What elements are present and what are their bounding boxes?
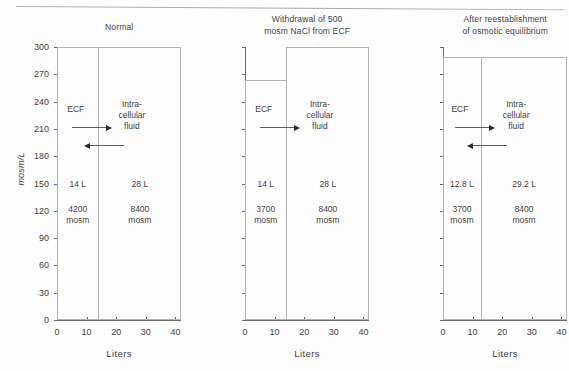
- arrow-shaft: [89, 145, 124, 146]
- y-axis-title: mosm/L: [16, 149, 26, 189]
- y-tick-label: 300: [23, 43, 49, 52]
- y-tick-label: 60: [23, 261, 49, 270]
- icf-osmoles-label: 8400 mosm: [499, 204, 549, 226]
- x-tick-label: 0: [235, 328, 255, 337]
- ecf-volume-label: 14 L: [56, 179, 100, 190]
- water-flux-arrow-right: [260, 124, 300, 131]
- x-tick-label: 20: [294, 328, 314, 337]
- y-tick-label: 270: [23, 70, 49, 79]
- y-tick-label: 30: [23, 289, 49, 298]
- icf-osmoles-label: 8400 mosm: [115, 204, 165, 226]
- y-tick-label: 120: [23, 207, 49, 216]
- x-tick-label: 20: [106, 328, 126, 337]
- x-axis-title: Liters: [79, 348, 159, 359]
- water-flux-arrow-left: [84, 142, 124, 149]
- icf-osmoles-label: 8400 mosm: [303, 204, 353, 226]
- icf-label: Intra- cellular fluid: [297, 99, 343, 132]
- ecf-label: ECF: [244, 104, 284, 115]
- panel-title: After reestablishment of osmotic equilib…: [430, 14, 569, 37]
- y-tick-label: 90: [23, 234, 49, 243]
- x-tick-label: 40: [165, 328, 185, 337]
- y-tick-label: 150: [23, 180, 49, 189]
- icf-label: Intra- cellular fluid: [493, 99, 539, 132]
- y-tick: [242, 74, 246, 75]
- x-axis-title: Liters: [465, 348, 545, 359]
- arrow-head: [84, 143, 90, 149]
- water-flux-arrow-left: [467, 142, 507, 149]
- y-tick-label: 210: [23, 125, 49, 134]
- water-flux-arrow-right: [455, 124, 495, 131]
- y-tick-label: 180: [23, 152, 49, 161]
- page-rule: [16, 6, 564, 10]
- y-tick: [54, 320, 58, 321]
- ecf-osmoles-label: 3700 mosm: [440, 204, 484, 226]
- ecf-osmoles-label: 3700 mosm: [244, 204, 288, 226]
- x-axis-line: [443, 320, 567, 321]
- icf-volume-label: 28 L: [303, 179, 353, 190]
- ecf-volume-label: 14 L: [244, 179, 288, 190]
- y-tick: [242, 47, 246, 48]
- arrow-head: [467, 143, 473, 149]
- water-flux-arrow-right: [72, 124, 112, 131]
- x-tick-label: 40: [353, 328, 373, 337]
- x-tick-label: 30: [522, 328, 542, 337]
- x-tick-label: 30: [324, 328, 344, 337]
- x-tick-label: 10: [77, 328, 97, 337]
- y-tick-label: 0: [23, 316, 49, 325]
- arrow-head: [294, 125, 300, 131]
- x-axis-line: [245, 320, 369, 321]
- arrow-shaft: [455, 127, 490, 128]
- x-tick-label: 20: [492, 328, 512, 337]
- ecf-label: ECF: [440, 104, 480, 115]
- icf-volume-label: 29.2 L: [499, 179, 549, 190]
- x-tick-label: 10: [265, 328, 285, 337]
- ecf-label: ECF: [56, 104, 96, 115]
- x-tick-label: 0: [47, 328, 67, 337]
- x-tick-label: 40: [551, 328, 569, 337]
- panel-title: Withdrawal of 500 mosm NaCl from ECF: [232, 14, 382, 37]
- x-axis-title: Liters: [267, 348, 347, 359]
- y-tick: [440, 47, 444, 48]
- x-axis-line: [57, 320, 181, 321]
- y-tick: [440, 320, 444, 321]
- icf-label: Intra- cellular fluid: [109, 99, 155, 132]
- panel-title: Normal: [44, 22, 194, 34]
- x-tick-label: 0: [433, 328, 453, 337]
- arrow-head: [489, 125, 495, 131]
- x-tick-label: 10: [463, 328, 483, 337]
- ecf-volume-label: 12.8 L: [440, 179, 484, 190]
- icf-volume-label: 28 L: [115, 179, 165, 190]
- arrow-head: [106, 125, 112, 131]
- x-tick-label: 30: [136, 328, 156, 337]
- y-tick: [242, 320, 246, 321]
- ecf-compartment-box: [245, 80, 286, 320]
- arrow-shaft: [260, 127, 295, 128]
- arrow-shaft: [472, 145, 507, 146]
- ecf-osmoles-label: 4200 mosm: [56, 204, 100, 226]
- y-tick-label: 240: [23, 98, 49, 107]
- arrow-shaft: [72, 127, 107, 128]
